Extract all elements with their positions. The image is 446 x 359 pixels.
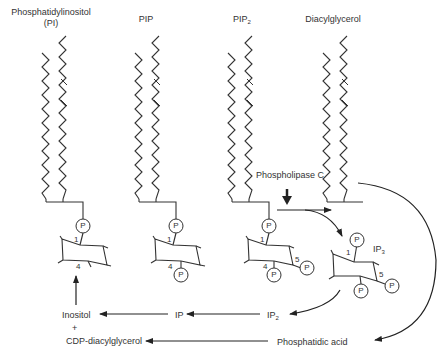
pip2-chain-right bbox=[245, 36, 252, 199]
label-diacylglycerol: Diacylglycerol bbox=[305, 14, 361, 24]
label-cdp-diacylglycerol: CDP-diacylglycerol bbox=[66, 336, 142, 346]
label-pip2: PIP2 bbox=[233, 14, 251, 27]
pip2-inositol-ring bbox=[244, 233, 301, 268]
phosphate-label: P bbox=[178, 271, 183, 279]
ring-number: 1 bbox=[167, 236, 171, 244]
phosphate-label: P bbox=[266, 222, 271, 230]
double-bond-marks bbox=[61, 79, 348, 106]
label-phosphatidylinositol: Phosphatidylinositol bbox=[11, 7, 91, 17]
label-ip: IP bbox=[175, 310, 184, 320]
phospholipase-c-arrowhead bbox=[282, 196, 292, 205]
ring-number: 1 bbox=[346, 249, 350, 257]
reaction-arrows bbox=[76, 183, 436, 341]
phosphate-label: P bbox=[80, 222, 85, 230]
inositol-rings bbox=[58, 233, 385, 284]
pip2-chain-left bbox=[228, 53, 235, 199]
ring-number: 1 bbox=[260, 236, 264, 244]
pip-chain-right bbox=[152, 36, 159, 199]
phosphate-label: P bbox=[304, 264, 309, 272]
pi-inositol-ring bbox=[58, 233, 111, 267]
label-pi-abbrev: (PI) bbox=[44, 18, 59, 28]
ring-number: 4 bbox=[76, 263, 80, 271]
ring-number: 4 bbox=[168, 263, 172, 271]
phosphate-label: P bbox=[354, 236, 359, 244]
ring-number: 1 bbox=[74, 236, 78, 244]
label-pip: PIP bbox=[139, 14, 154, 24]
pip-inositol-ring bbox=[151, 233, 205, 268]
ring-number: 5 bbox=[295, 256, 299, 264]
label-ip2: IP2 bbox=[267, 310, 279, 323]
phosphate-label: P bbox=[358, 287, 363, 295]
pip-chain-left bbox=[135, 53, 142, 199]
label-ip3: IP3 bbox=[373, 244, 385, 257]
pi-chain-right bbox=[59, 36, 66, 199]
ip3-to-ip2-arrow bbox=[290, 290, 340, 314]
label-inositol: Inositol bbox=[62, 310, 91, 320]
label-phospholipase-c: Phospholipase C bbox=[256, 170, 324, 180]
pi-chain-left bbox=[42, 53, 49, 199]
pip2-to-ip3-arrow bbox=[305, 210, 342, 236]
diagram-canvas bbox=[0, 0, 446, 359]
dag-chain-left bbox=[323, 53, 330, 199]
phosphate-label: P bbox=[389, 282, 394, 290]
ring-number: 4 bbox=[263, 263, 267, 271]
phosphate-label: P bbox=[271, 271, 276, 279]
phosphate-label: P bbox=[173, 222, 178, 230]
ring-number: 5 bbox=[379, 271, 383, 279]
phosphoinositide-cycle-diagram: Phosphatidylinositol (PI) PIP PIP2 Diacy… bbox=[0, 0, 446, 359]
label-plus: + bbox=[72, 323, 77, 333]
dag-chain-right bbox=[340, 36, 347, 199]
glycerol-backbones bbox=[46, 199, 363, 230]
ring-phosphates bbox=[174, 233, 399, 298]
label-phosphatidic-acid: Phosphatidic acid bbox=[277, 337, 348, 347]
